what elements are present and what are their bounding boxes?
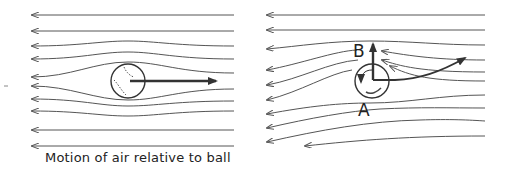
left-caption: Motion of air relative to ball xyxy=(45,150,231,165)
label-b: B xyxy=(353,41,365,61)
diagram-canvas: B A xyxy=(0,0,507,174)
label-a: A xyxy=(358,100,370,120)
